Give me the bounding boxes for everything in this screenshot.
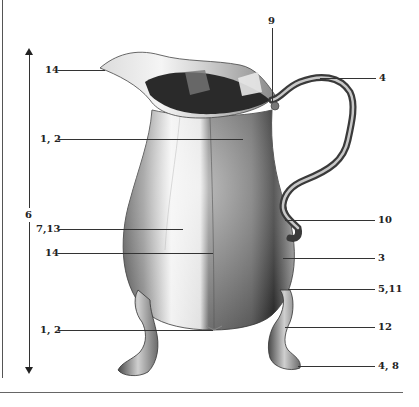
callout-label-left-3: 7,13 xyxy=(36,223,60,235)
callout-line-left-1 xyxy=(58,70,105,71)
callout-label-right-6: 12 xyxy=(378,321,392,333)
callout-line-right-7 xyxy=(298,366,375,367)
cream-jug-illustration xyxy=(0,0,419,407)
callout-label-right-2: 4 xyxy=(379,72,386,84)
callout-line-right-1 xyxy=(272,28,273,102)
callout-label-left-1: 14 xyxy=(45,64,59,76)
callout-label-left-4: 14 xyxy=(45,247,59,259)
callout-line-right-3 xyxy=(285,220,375,221)
callout-label-right-5: 5,11 xyxy=(378,283,402,295)
callout-line-left-4 xyxy=(58,253,213,254)
callout-line-left-3 xyxy=(58,229,183,230)
callout-line-left-5 xyxy=(58,330,213,331)
callout-line-left-2 xyxy=(58,139,243,140)
callout-label-right-4: 3 xyxy=(378,252,385,264)
callout-label-right-7: 4, 8 xyxy=(378,360,399,372)
callout-line-right-5 xyxy=(288,289,375,290)
callout-line-right-4 xyxy=(283,258,375,259)
callout-line-right-2 xyxy=(320,78,376,79)
callout-line-right-6 xyxy=(285,327,375,328)
callout-label-right-1: 9 xyxy=(268,15,275,27)
callout-label-right-3: 10 xyxy=(378,214,392,226)
